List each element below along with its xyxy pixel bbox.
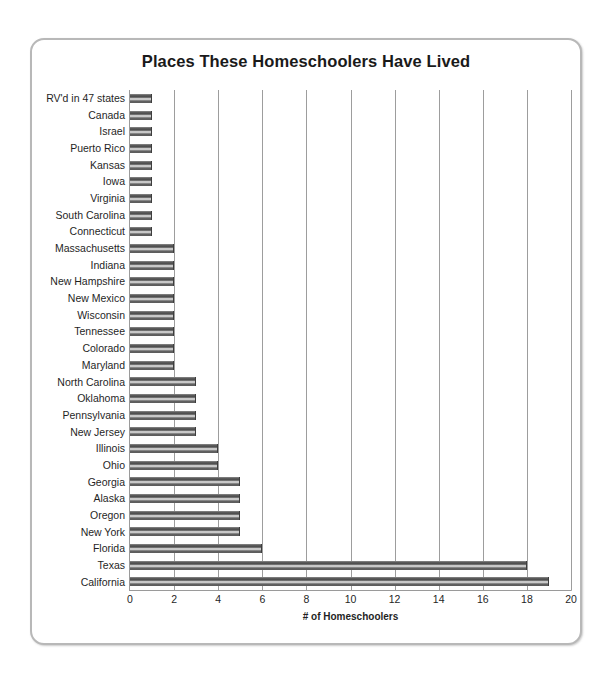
bar: [130, 244, 174, 253]
bar: [130, 194, 152, 203]
bar-row: Puerto Rico: [130, 140, 571, 157]
category-label: South Carolina: [56, 210, 125, 221]
x-tick-label: 8: [303, 593, 309, 605]
bar-row: Ohio: [130, 457, 571, 474]
bar: [130, 344, 174, 353]
bar: [130, 227, 152, 236]
bar-row: Kansas: [130, 157, 571, 174]
category-label: Connecticut: [70, 226, 125, 237]
category-label: New Mexico: [68, 293, 125, 304]
bar: [130, 94, 152, 103]
category-label: Florida: [93, 543, 125, 554]
category-label: Iowa: [103, 176, 125, 187]
x-tick-label: 12: [389, 593, 401, 605]
x-tick-label: 10: [345, 593, 357, 605]
x-tick-label: 18: [521, 593, 533, 605]
bar-row: Oregon: [130, 507, 571, 524]
category-label: RV'd in 47 states: [46, 93, 125, 104]
category-label: Oklahoma: [77, 393, 125, 404]
bar: [130, 111, 152, 120]
category-label: Kansas: [90, 160, 125, 171]
bar-row: Tennessee: [130, 323, 571, 340]
category-label: Pennsylvania: [63, 410, 125, 421]
bar: [130, 144, 152, 153]
bar: [130, 377, 196, 386]
bar: [130, 561, 527, 570]
bar-row: Alaska: [130, 490, 571, 507]
bar: [130, 411, 196, 420]
bar: [130, 127, 152, 136]
category-label: Texas: [98, 560, 125, 571]
x-tick-label: 2: [171, 593, 177, 605]
category-label: Puerto Rico: [70, 143, 125, 154]
bar-row: Iowa: [130, 173, 571, 190]
chart-frame: Places These Homeschoolers Have Lived RV…: [30, 38, 582, 645]
bar: [130, 177, 152, 186]
category-label: North Carolina: [57, 377, 125, 388]
bar-row: Colorado: [130, 340, 571, 357]
bar-row: North Carolina: [130, 373, 571, 390]
bar: [130, 461, 218, 470]
category-label: Maryland: [82, 360, 125, 371]
bar: [130, 444, 218, 453]
bar: [130, 544, 262, 553]
bar-row: New Jersey: [130, 423, 571, 440]
bar: [130, 261, 174, 270]
bar: [130, 327, 174, 336]
bar-row: Georgia: [130, 473, 571, 490]
bar-row: South Carolina: [130, 207, 571, 224]
x-tick-label: 14: [433, 593, 445, 605]
category-label: Georgia: [88, 477, 125, 488]
bar: [130, 311, 174, 320]
bar: [130, 161, 152, 170]
bar-row: Oklahoma: [130, 390, 571, 407]
bar-row: Pennsylvania: [130, 407, 571, 424]
x-tick-label: 20: [565, 593, 577, 605]
x-tick-label: 6: [259, 593, 265, 605]
category-label: Canada: [88, 110, 125, 121]
bar: [130, 394, 196, 403]
category-label: Illinois: [96, 443, 125, 454]
x-tick-label: 4: [215, 593, 221, 605]
bar: [130, 361, 174, 370]
bar: [130, 294, 174, 303]
bar-row: RV'd in 47 states: [130, 90, 571, 107]
category-label: New Jersey: [70, 427, 125, 438]
category-label: California: [81, 577, 125, 588]
category-label: Tennessee: [74, 326, 125, 337]
bar-row: New Mexico: [130, 290, 571, 307]
bar-row: California: [130, 573, 571, 590]
gridline: [571, 90, 572, 590]
bar-rows: RV'd in 47 statesCanadaIsraelPuerto Rico…: [130, 90, 571, 590]
x-axis-title: # of Homeschoolers: [130, 611, 571, 622]
bar-row: Virginia: [130, 190, 571, 207]
category-label: New York: [81, 527, 125, 538]
category-label: Ohio: [103, 460, 125, 471]
category-label: Virginia: [90, 193, 125, 204]
bar-row: Indiana: [130, 257, 571, 274]
category-label: Colorado: [82, 343, 125, 354]
chart-title: Places These Homeschoolers Have Lived: [32, 52, 580, 71]
category-label: Oregon: [90, 510, 125, 521]
x-tick-label: 16: [477, 593, 489, 605]
category-label: New Hampshire: [50, 276, 125, 287]
bar-row: Texas: [130, 557, 571, 574]
bar: [130, 577, 549, 586]
bar: [130, 494, 240, 503]
bar: [130, 477, 240, 486]
category-label: Massachusetts: [55, 243, 125, 254]
bar: [130, 511, 240, 520]
bar-row: Connecticut: [130, 223, 571, 240]
category-label: Israel: [99, 126, 125, 137]
bar-row: Massachusetts: [130, 240, 571, 257]
bar-row: Canada: [130, 107, 571, 124]
bar: [130, 527, 240, 536]
bar-row: New York: [130, 523, 571, 540]
bar-row: Israel: [130, 123, 571, 140]
bar-row: Illinois: [130, 440, 571, 457]
bar-row: New Hampshire: [130, 273, 571, 290]
bar-row: Maryland: [130, 357, 571, 374]
bar-row: Florida: [130, 540, 571, 557]
bar-row: Wisconsin: [130, 307, 571, 324]
bar: [130, 427, 196, 436]
